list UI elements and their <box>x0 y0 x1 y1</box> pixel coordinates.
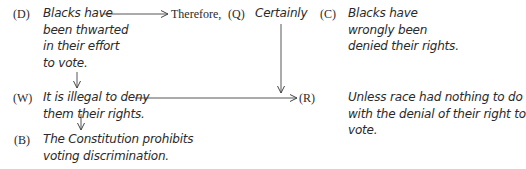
node-b-label: (B) <box>14 132 30 148</box>
node-w-line: It is illegal to deny <box>43 89 149 106</box>
node-c-line: Blacks have <box>348 5 459 22</box>
therefore-text: Therefore, <box>171 6 221 22</box>
node-r-line: vote. <box>348 122 526 139</box>
node-q-label: (Q) <box>228 6 245 22</box>
node-r-line: with the denial of their right to <box>348 106 526 123</box>
node-r-label: (R) <box>299 90 315 106</box>
node-w-line: them their rights. <box>43 106 149 123</box>
node-q-text: Certainly <box>255 5 307 22</box>
node-w-text: It is illegal to deny them their rights. <box>43 89 149 122</box>
node-d-line: been thwarted <box>43 22 128 39</box>
node-d-label: (D) <box>13 6 30 22</box>
node-b-text: The Constitution prohibits voting discri… <box>43 131 193 164</box>
node-w-label: (W) <box>13 90 32 106</box>
node-d-line: to vote. <box>43 55 128 72</box>
node-c-text: Blacks have wrongly been denied their ri… <box>348 5 459 55</box>
node-r-line: Unless race had nothing to do <box>348 89 526 106</box>
node-c-line: denied their rights. <box>348 38 459 55</box>
node-b-line: voting discrimination. <box>43 148 193 165</box>
node-d-line: Blacks have <box>43 5 128 22</box>
node-d-line: in their effort <box>43 38 128 55</box>
node-c-line: wrongly been <box>348 22 459 39</box>
node-c-label: (C) <box>320 6 336 22</box>
node-d-text: Blacks have been thwarted in their effor… <box>43 5 128 71</box>
node-r-text: Unless race had nothing to do with the d… <box>348 89 526 139</box>
node-b-line: The Constitution prohibits <box>43 131 193 148</box>
